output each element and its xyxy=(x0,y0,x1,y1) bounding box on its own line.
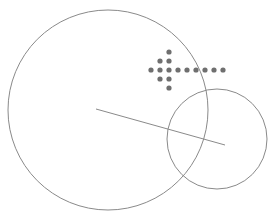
dot xyxy=(184,67,189,72)
dot xyxy=(166,49,171,54)
dot xyxy=(157,76,162,81)
dot xyxy=(175,67,180,72)
dot-arrow-pattern xyxy=(148,49,225,90)
dot xyxy=(220,67,225,72)
dot xyxy=(166,76,171,81)
dot xyxy=(202,67,207,72)
dot xyxy=(211,67,216,72)
dot xyxy=(157,67,162,72)
small-circle xyxy=(167,89,267,189)
dot xyxy=(157,58,162,63)
radius-line xyxy=(96,109,225,145)
dot xyxy=(166,85,171,90)
dot xyxy=(166,67,171,72)
dot xyxy=(148,67,153,72)
dot xyxy=(193,67,198,72)
connecting-line-layer xyxy=(96,109,225,145)
dot xyxy=(166,58,171,63)
circles-diagram xyxy=(0,0,269,218)
circles-layer xyxy=(8,10,267,210)
large-circle xyxy=(8,10,208,210)
